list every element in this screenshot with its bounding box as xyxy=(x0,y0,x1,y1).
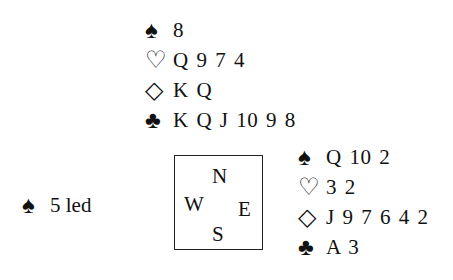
north-hearts-row: ♡ Q 9 7 4 xyxy=(145,45,296,75)
north-spades-cards: 8 xyxy=(173,15,184,45)
spade-icon: ♠ xyxy=(22,190,50,220)
opening-lead-text: 5 led xyxy=(50,190,91,220)
heart-icon: ♡ xyxy=(145,45,173,75)
north-hand: ♠ 8 ♡ Q 9 7 4 ◇ K Q ♣ K Q J 10 9 8 xyxy=(145,15,296,135)
north-hearts-cards: Q 9 7 4 xyxy=(173,45,245,75)
east-hand: ♠ Q 10 2 ♡ 3 2 ◇ J 9 7 6 4 2 ♣ A 3 xyxy=(298,142,428,262)
north-diamonds-cards: K Q xyxy=(173,75,212,105)
compass-box: N W E S xyxy=(174,155,263,250)
compass-west: W xyxy=(184,194,204,215)
opening-lead: ♠ 5 led xyxy=(22,190,91,220)
east-diamonds-row: ◇ J 9 7 6 4 2 xyxy=(298,202,428,232)
east-clubs-cards: A 3 xyxy=(326,232,359,262)
compass-east: E xyxy=(238,199,251,220)
north-clubs-row: ♣ K Q J 10 9 8 xyxy=(145,105,296,135)
club-icon: ♣ xyxy=(298,232,326,262)
diamond-icon: ◇ xyxy=(298,202,326,232)
club-icon: ♣ xyxy=(145,105,173,135)
east-hearts-row: ♡ 3 2 xyxy=(298,172,428,202)
east-diamonds-cards: J 9 7 6 4 2 xyxy=(326,202,428,232)
compass-north: N xyxy=(212,166,227,187)
east-spades-cards: Q 10 2 xyxy=(326,142,390,172)
east-hearts-cards: 3 2 xyxy=(326,172,356,202)
north-spades-row: ♠ 8 xyxy=(145,15,296,45)
north-clubs-cards: K Q J 10 9 8 xyxy=(173,105,296,135)
north-diamonds-row: ◇ K Q xyxy=(145,75,296,105)
east-clubs-row: ♣ A 3 xyxy=(298,232,428,262)
diamond-icon: ◇ xyxy=(145,75,173,105)
east-spades-row: ♠ Q 10 2 xyxy=(298,142,428,172)
compass-south: S xyxy=(212,224,224,245)
spade-icon: ♠ xyxy=(298,142,326,172)
spade-icon: ♠ xyxy=(145,15,173,45)
heart-icon: ♡ xyxy=(298,172,326,202)
